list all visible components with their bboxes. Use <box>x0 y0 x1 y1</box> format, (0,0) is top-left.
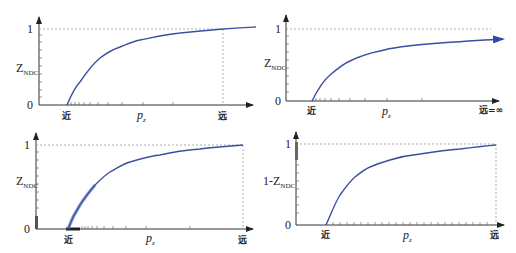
x-axis-label: pz <box>136 108 146 124</box>
x-tick-near: 近 <box>62 110 71 121</box>
x-tick-near: 近 <box>321 229 330 240</box>
x-axis-label: pz <box>402 228 412 244</box>
precision-bar-y <box>35 216 38 229</box>
x-tick-far: 远 <box>238 235 248 245</box>
y-tick-0: 0 <box>285 218 291 232</box>
y-tick-0: 0 <box>24 222 30 236</box>
x-tick-near: 近 <box>307 105 316 116</box>
curve-z-ndc <box>312 39 503 101</box>
x-tick-near: 近 <box>64 234 73 245</box>
x-axis-label: pz <box>381 104 391 120</box>
y-tick-1: 1 <box>27 22 33 36</box>
chart-top-right: 1 0 ZNDC pz 近 远=∞ <box>264 15 503 120</box>
chart-bottom-right: 1 0 1-ZNDC pz 近 远 <box>263 132 504 244</box>
y-tick-1: 1 <box>275 22 281 36</box>
x-tick-far: 远 <box>218 111 228 121</box>
y-axis-label: 1-ZNDC <box>263 174 295 190</box>
x-tick-far: 远 <box>490 230 500 240</box>
curve-one-minus-z-ndc <box>326 145 496 225</box>
precision-bar-y <box>295 142 298 160</box>
curve-precision-highlight <box>68 185 95 229</box>
y-tick-0: 0 <box>27 98 33 112</box>
y-tick-0: 0 <box>275 94 281 108</box>
y-tick-1: 1 <box>24 138 30 152</box>
curve-z-ndc <box>68 145 243 229</box>
chart-top-left: 1 0 ZNDC pz 近 远 <box>16 17 256 124</box>
y-axis-label: ZNDC <box>16 174 38 190</box>
y-axis-label: ZNDC <box>264 56 286 72</box>
x-tick-far-infinity: 远=∞ <box>479 105 503 115</box>
curve-z-ndc <box>67 27 256 105</box>
x-axis-label: pz <box>145 231 155 247</box>
y-tick-1: 1 <box>285 137 291 151</box>
y-axis-label: ZNDC <box>16 61 38 77</box>
chart-bottom-left: 1 0 ZNDC pz 近 远 <box>16 133 253 247</box>
